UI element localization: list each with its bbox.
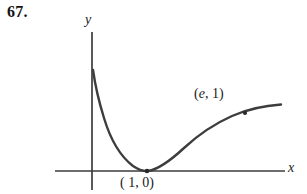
- graph-plot: [0, 0, 307, 194]
- marked-point-minimum: [145, 169, 150, 174]
- paren-close: ): [149, 175, 154, 190]
- figure-container: 67. y x (e, 1) ( 1, 0): [0, 0, 307, 194]
- paren-close: ): [219, 86, 224, 101]
- y-axis-label: y: [85, 13, 91, 27]
- x-axis-label: x: [288, 161, 294, 175]
- point-label-1-0: ( 1, 0): [120, 176, 154, 190]
- coordinate-separator: ,: [205, 86, 212, 101]
- marked-point-e-1: [243, 111, 247, 115]
- function-curve: [93, 70, 281, 171]
- point-label-e-1: (e, 1): [194, 87, 224, 101]
- coordinate-y-value: 1: [212, 86, 219, 101]
- paren-open: (: [120, 175, 128, 190]
